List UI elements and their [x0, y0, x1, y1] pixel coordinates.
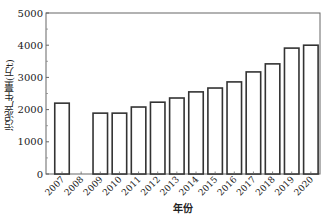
x-tick-label: 2019: [273, 174, 296, 197]
y-tick-label: 5000: [18, 8, 43, 19]
x-tick-label: 2011: [120, 174, 143, 197]
x-tick-label: 2013: [158, 174, 181, 197]
y-tick-label: 2000: [18, 104, 43, 115]
x-tick-label: 2009: [81, 174, 104, 197]
bar-2011: [131, 107, 146, 174]
x-tick-label: 2016: [215, 174, 238, 197]
x-tick-label: 2020: [292, 174, 315, 197]
x-tick-label: 2008: [62, 174, 85, 197]
bar-2007: [55, 103, 70, 174]
bar-2020: [304, 45, 319, 174]
x-tick-label: 2014: [177, 174, 200, 197]
bar-2015: [208, 88, 223, 174]
bar-2014: [189, 92, 204, 174]
bar-2010: [112, 113, 127, 174]
bar-2016: [227, 82, 242, 174]
x-axis-label: 年份: [46, 200, 320, 215]
bar-2018: [265, 64, 280, 174]
x-tick-label: 2007: [43, 174, 66, 197]
y-tick-label: 0: [37, 169, 43, 180]
x-tick-label: 2010: [101, 174, 124, 197]
y-tick-label: 3000: [18, 72, 43, 83]
bar-2009: [93, 113, 108, 174]
y-tick-label: 4000: [18, 40, 43, 51]
x-tick-label: 2015: [196, 174, 219, 197]
x-tick-label: 2018: [254, 174, 277, 197]
y-tick-label: 1000: [18, 136, 43, 147]
bar-chart: 0100020003000400050002007200820092010201…: [0, 0, 328, 219]
bar-2019: [284, 48, 299, 174]
x-tick-label: 2012: [139, 174, 162, 197]
bar-2013: [170, 98, 185, 174]
y-axis-label: 污泥产生量(万t): [2, 40, 18, 150]
x-tick-label: 2017: [235, 174, 258, 197]
bar-2012: [150, 102, 165, 174]
bar-2017: [246, 72, 261, 174]
